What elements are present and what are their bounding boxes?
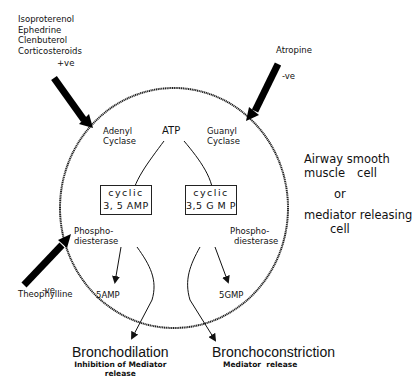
pathway-diagram: Isoproterenol Ephedrine Clenbuterol Cort…: [0, 0, 415, 381]
pde-right-line1: Phospho-: [230, 226, 278, 236]
drug-clenbuterol: Clenbuterol: [18, 35, 82, 46]
drug-ephedrine: Ephedrine: [18, 25, 82, 36]
bronchodilation-sub1: Inhibition of Mediator: [72, 360, 169, 369]
camp-line1: cyclic: [101, 186, 151, 199]
cell-line5: cell: [304, 222, 412, 236]
stimulant-drug-list: Isoproterenol Ephedrine Clenbuterol Cort…: [18, 14, 82, 56]
cgmp-line2: 3,5 G M P: [186, 199, 236, 212]
guanyl-cyclase-label: Guanyl Cyclase: [207, 126, 240, 146]
adenyl-cyclase-label: Adenyl Cyclase: [103, 126, 136, 146]
product-5amp: 5AMP: [96, 290, 120, 300]
product-5gmp: 5GMP: [219, 290, 243, 300]
cgmp-to-5gmp-arrow: [215, 247, 228, 282]
guanyl-text: Guanyl: [207, 126, 240, 136]
atropine-effect-label: -ve: [282, 71, 295, 82]
atropine-arrow: [246, 64, 278, 121]
cell-type-label: Airway smooth musclecell or mediator rel…: [304, 152, 412, 236]
cell-line2b: cell: [357, 166, 377, 180]
cyclic-amp-box: cyclic 3, 5 AMP: [100, 185, 152, 215]
cyclase-text: Cyclase: [207, 136, 240, 146]
camp-to-5amp-arrow: [115, 247, 121, 282]
bronchoconstriction-outcome: Bronchoconstriction Mediator release: [212, 345, 335, 369]
atropine-label: Atropine: [276, 45, 312, 56]
cell-line2: musclecell: [304, 166, 412, 180]
cyclase-text: Cyclase: [103, 136, 136, 146]
bronchoconstriction-sub: Mediator release: [212, 360, 335, 369]
pde-left-line1: Phospho-: [74, 226, 118, 236]
drug-isoproterenol: Isoproterenol: [18, 14, 82, 25]
bronchodilation-outcome: Bronchodilation Inhibition of Mediator r…: [72, 345, 169, 378]
stimulant-arrow: [54, 78, 93, 128]
stimulant-effect-label: +ve: [57, 58, 74, 69]
cgmp-line1: cyclic: [186, 186, 236, 199]
bronchodilation-title: Bronchodilation: [72, 345, 169, 360]
theophylline-effect-label: -ve: [42, 285, 55, 296]
bronchodilation-sub2: release: [72, 369, 169, 378]
cyclic-gmp-box: cyclic 3,5 G M P: [185, 185, 237, 215]
cell-line2a: muscle: [304, 166, 345, 180]
bronchoconstriction-title: Bronchoconstriction: [212, 345, 335, 360]
drug-corticosteroids: Corticosteroids: [18, 46, 82, 57]
atp-label: ATP: [162, 125, 180, 136]
pde-right-line2: diesterase: [230, 236, 278, 246]
adenyl-text: Adenyl: [103, 126, 136, 136]
cell-membrane: [60, 88, 288, 328]
phosphodiesterase-right-label: Phospho- diesterase: [230, 226, 278, 246]
camp-line2: 3, 5 AMP: [101, 199, 151, 212]
theophylline-arrow: [24, 234, 71, 285]
cell-line1: Airway smooth: [304, 152, 412, 166]
phosphodiesterase-left-label: Phospho- diesterase: [74, 226, 118, 246]
pde-left-line2: diesterase: [74, 236, 118, 246]
cell-line4: mediator releasing: [304, 208, 412, 222]
cell-line3: or: [304, 187, 412, 201]
